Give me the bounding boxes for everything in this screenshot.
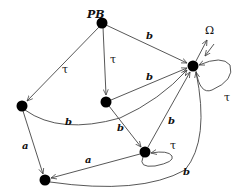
edge-omega-in-tick (205, 44, 214, 56)
label-tau-loop-self: τ (170, 139, 176, 152)
edge-middle-loop (109, 106, 141, 147)
edge-loop-bottom (51, 154, 140, 178)
label-tau-pb-left: τ (62, 63, 68, 76)
label-a-loop-bottom: a (85, 154, 91, 165)
node-middle (101, 97, 112, 108)
label-tau-omega-self: τ (224, 91, 230, 104)
label-omega: Ω (205, 24, 214, 37)
omega-self-edge (196, 60, 231, 91)
edge-loop-omega (148, 72, 190, 147)
label-b-pb-omega: b (146, 30, 153, 41)
edge-omega-out (196, 40, 207, 61)
node-loop (140, 147, 151, 158)
label-pb: PB (86, 8, 105, 21)
label-a-left-bottom: a (22, 140, 28, 151)
edges (23, 25, 231, 186)
label-b-left-omega: b (65, 116, 72, 127)
label-tau-pb-mid: τ (110, 53, 116, 66)
label-b-mid-loop: b (117, 122, 124, 133)
label-b-bottom-omega: b (183, 166, 190, 177)
state-diagram: PB Ω τ τ b b b b b a a b τ τ (0, 0, 246, 194)
edge-pb-middle (103, 27, 106, 95)
edge-bottom-omega (50, 72, 201, 186)
node-left (17, 101, 28, 112)
node-bottom (40, 175, 51, 186)
label-b-loop-omega: b (168, 115, 175, 126)
label-b-mid-omega: b (146, 71, 153, 82)
node-omega (188, 61, 199, 72)
labels: PB Ω τ τ b b b b b a a b τ τ (22, 8, 230, 177)
